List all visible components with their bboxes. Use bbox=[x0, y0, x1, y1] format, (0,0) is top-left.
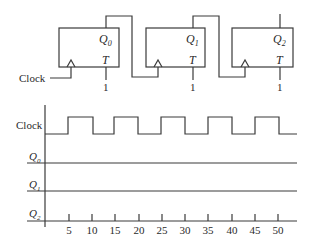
clock-triangle-1 bbox=[154, 60, 162, 67]
timing-label-q2: Q2 bbox=[29, 207, 41, 222]
svg-text:5: 5 bbox=[66, 224, 72, 236]
time-tick-labels: 5 10 15 20 25 30 35 40 45 50 bbox=[66, 224, 284, 236]
svg-text:35: 35 bbox=[203, 224, 215, 236]
svg-text:40: 40 bbox=[227, 224, 239, 236]
q0-wire bbox=[106, 16, 158, 77]
svg-text:45: 45 bbox=[250, 224, 262, 236]
ff0-t-value: 1 bbox=[103, 81, 109, 93]
clock-triangle-2 bbox=[241, 60, 249, 67]
ff2-q-label: Q2 bbox=[273, 32, 286, 48]
time-ticks bbox=[69, 214, 278, 221]
ff2-t-label: T bbox=[276, 53, 284, 67]
svg-text:25: 25 bbox=[157, 224, 169, 236]
counter-diagram: Clock Q0 Q1 Q2 T T T 1 1 1 Clock Q0 Q1 Q… bbox=[0, 0, 313, 245]
svg-text:20: 20 bbox=[134, 224, 146, 236]
clock-input-wire bbox=[50, 67, 71, 78]
svg-text:10: 10 bbox=[87, 224, 99, 236]
clock-triangle-0 bbox=[67, 60, 75, 67]
clock-waveform bbox=[45, 117, 297, 134]
svg-text:50: 50 bbox=[273, 224, 285, 236]
clock-input-label: Clock bbox=[19, 72, 46, 84]
ff2-t-value: 1 bbox=[277, 81, 283, 93]
ff0-q-label: Q0 bbox=[99, 32, 112, 48]
ff0-t-label: T bbox=[102, 53, 110, 67]
ff1-t-value: 1 bbox=[190, 81, 196, 93]
ff1-q-label: Q1 bbox=[186, 32, 199, 48]
ff1-t-label: T bbox=[189, 53, 197, 67]
svg-text:30: 30 bbox=[180, 224, 192, 236]
timing-label-clock: Clock bbox=[16, 119, 43, 131]
q1-wire bbox=[193, 16, 245, 77]
svg-text:15: 15 bbox=[110, 224, 122, 236]
